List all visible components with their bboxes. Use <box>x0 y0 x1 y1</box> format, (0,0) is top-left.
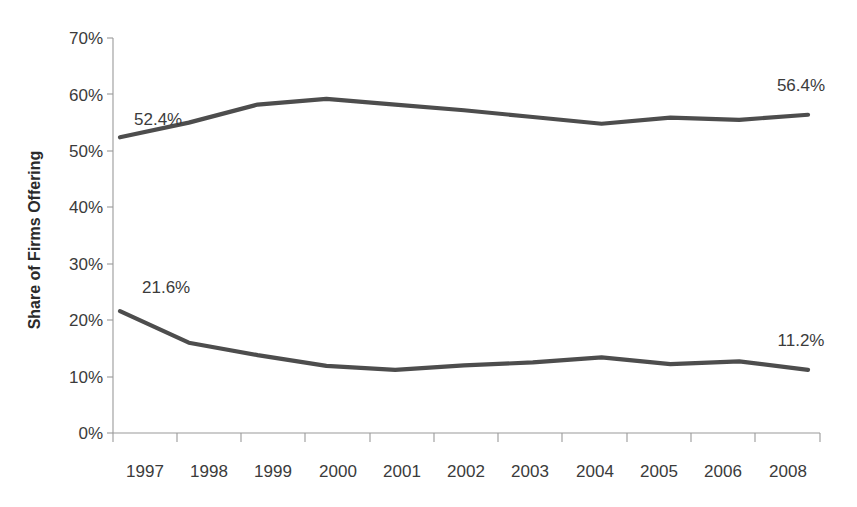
x-tick-label: 1998 <box>190 462 228 481</box>
x-tick-label: 2008 <box>769 462 807 481</box>
y-axis-ticks <box>107 38 113 433</box>
y-tick-label: 20% <box>69 311 103 330</box>
y-tick-label: 10% <box>69 368 103 387</box>
x-tick-label: 1997 <box>126 462 164 481</box>
annotation-upper-start: 52.4% <box>134 110 182 129</box>
x-tick-label: 2000 <box>319 462 357 481</box>
y-axis-tick-labels: 70% 60% 50% 40% 30% 20% 10% 0% <box>69 29 103 443</box>
annotation-lower-start: 21.6% <box>142 278 190 297</box>
y-tick-label: 30% <box>69 255 103 274</box>
x-tick-label: 2003 <box>511 462 549 481</box>
series-line-upper <box>120 99 808 137</box>
x-tick-label: 2004 <box>576 462 614 481</box>
y-tick-label: 70% <box>69 29 103 48</box>
series-line-lower <box>120 311 808 370</box>
x-axis-tick-labels: 1997 1998 1999 2000 2001 2002 2003 2004 … <box>126 462 807 481</box>
x-tick-label: 2006 <box>704 462 742 481</box>
y-tick-label: 0% <box>78 424 103 443</box>
x-tick-label: 2005 <box>640 462 678 481</box>
line-chart: Share of Firms Offering 70% 60% 50% 40% … <box>0 0 857 507</box>
x-tick-label: 2002 <box>447 462 485 481</box>
annotation-upper-end: 56.4% <box>777 76 825 95</box>
y-tick-label: 60% <box>69 86 103 105</box>
x-tick-label: 1999 <box>254 462 292 481</box>
x-tick-label: 2001 <box>383 462 421 481</box>
y-tick-label: 50% <box>69 142 103 161</box>
chart-container: Share of Firms Offering 70% 60% 50% 40% … <box>0 0 857 507</box>
y-axis-title: Share of Firms Offering <box>26 151 43 330</box>
x-axis-ticks <box>113 433 820 442</box>
y-tick-label: 40% <box>69 198 103 217</box>
annotation-lower-end: 11.2% <box>778 331 825 350</box>
